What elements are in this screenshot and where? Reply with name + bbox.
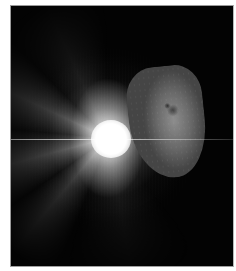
photo-frame	[10, 5, 234, 267]
impact-flash	[91, 120, 131, 158]
